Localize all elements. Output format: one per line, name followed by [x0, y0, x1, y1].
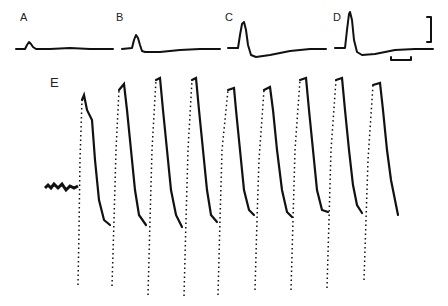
trace-b [122, 35, 220, 52]
trace-e-baseline [45, 184, 78, 190]
scale-bar-vertical [427, 17, 431, 42]
trace-e-rising [78, 80, 373, 296]
trace-a [16, 42, 113, 49]
trace-d [335, 12, 433, 55]
trace-e-falling [82, 78, 398, 227]
scale-bar-horizontal [391, 57, 411, 60]
figure-canvas [0, 0, 448, 306]
trace-c [228, 22, 326, 57]
